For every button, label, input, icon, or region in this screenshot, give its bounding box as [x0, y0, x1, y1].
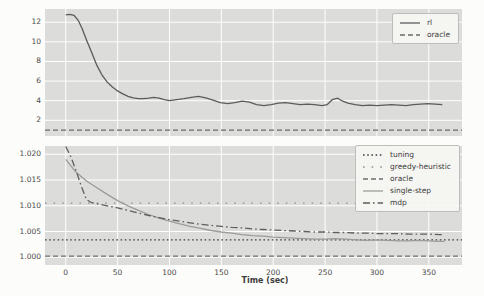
legend-label-greedy-heuristic: greedy-heuristic [390, 162, 451, 171]
legend-label-oracle: oracle [427, 30, 450, 39]
ytick-label: 2 [11, 116, 41, 124]
legend-entry-tuning: tuning [362, 149, 451, 160]
rl-line-sample [399, 19, 421, 27]
greedy-heuristic-line-sample [362, 163, 384, 171]
ytick-label: 1.010 [11, 202, 41, 210]
xtick-label: 300 [360, 269, 394, 277]
single-step-line-sample [362, 187, 384, 195]
oracle-line-sample [399, 31, 421, 39]
mdp-line-sample [362, 199, 384, 207]
ytick-label: 4 [11, 97, 41, 105]
legend-label-mdp: mdp [390, 198, 407, 207]
ytick-label: 6 [11, 77, 41, 85]
xtick-label: 100 [152, 269, 186, 277]
legend-label-rl: rl [427, 18, 432, 27]
figure: 246810121.0001.0051.0101.0151.0200501001… [0, 0, 484, 296]
xtick-label: 0 [49, 269, 83, 277]
legend-entry-rl: rl [399, 17, 450, 28]
ytick-label: 8 [11, 57, 41, 65]
legend-label-tuning: tuning [390, 150, 414, 159]
ytick-label: 12 [11, 18, 41, 26]
ytick-label: 1.000 [11, 253, 41, 261]
legend-label-single-step: single-step [390, 186, 431, 195]
x-axis-label: Time (sec) [225, 276, 305, 285]
legend-entry-mdp: mdp [362, 197, 451, 208]
legend-top: rl oracle [392, 13, 459, 44]
ytick-label: 1.015 [11, 176, 41, 184]
ytick-label: 1.005 [11, 228, 41, 236]
ytick-label: 1.020 [11, 150, 41, 158]
tuning-line-sample [362, 151, 384, 159]
xtick-label: 350 [412, 269, 446, 277]
ytick-label: 10 [11, 38, 41, 46]
legend-entry-oracle: oracle [399, 29, 450, 40]
legend-bottom: tuning greedy-heuristic oracle single-st… [355, 145, 460, 212]
legend-entry-oracle-bottom: oracle [362, 173, 451, 184]
xtick-label: 250 [308, 269, 342, 277]
oracle-bottom-line-sample [362, 175, 384, 183]
legend-entry-greedy-heuristic: greedy-heuristic [362, 161, 451, 172]
legend-entry-single-step: single-step [362, 185, 451, 196]
legend-label-oracle-bottom: oracle [390, 174, 413, 183]
xtick-label: 50 [101, 269, 135, 277]
